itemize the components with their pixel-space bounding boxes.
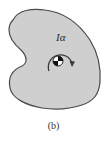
- figure-caption: (b): [0, 121, 107, 131]
- center-of-mass-icon: [53, 56, 63, 66]
- rigid-body-free-body-diagram: Iα (b): [0, 0, 107, 147]
- moment-label: Iα: [56, 32, 65, 43]
